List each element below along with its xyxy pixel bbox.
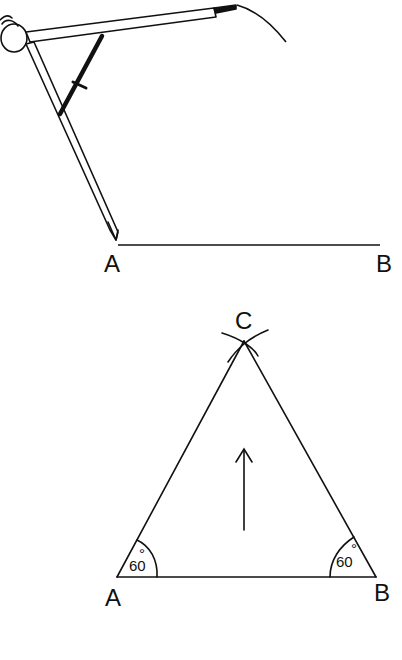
angle-b-degree: ° [351, 540, 357, 557]
compass-icon [0, 5, 236, 240]
angle-a-degree: ° [139, 545, 145, 562]
label-b-top: B [376, 250, 392, 277]
compass-arc [237, 5, 286, 42]
label-b-bottom: B [374, 579, 390, 606]
label-c: C [235, 307, 252, 334]
label-a-top: A [104, 250, 120, 277]
label-a-bottom: A [105, 584, 121, 611]
diagram-canvas: A B C A B 60 ° 60 ° [0, 0, 402, 660]
up-arrow-icon [236, 449, 252, 530]
